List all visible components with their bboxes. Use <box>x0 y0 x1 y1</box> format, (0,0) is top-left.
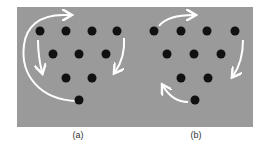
right-down-arrow-icon <box>233 40 243 76</box>
dot <box>62 74 71 83</box>
panel-a-dots <box>36 27 122 105</box>
left-down-arrow-icon <box>38 40 42 72</box>
bottom-left-up-arrow-icon <box>163 86 188 102</box>
dot <box>113 27 122 36</box>
dot <box>88 27 97 36</box>
dot <box>231 27 240 36</box>
dot <box>75 96 84 105</box>
dot <box>150 27 159 36</box>
dot <box>88 74 97 83</box>
figure-graphic <box>0 0 268 151</box>
top-right-arrow-icon <box>159 15 194 26</box>
dot <box>203 27 212 36</box>
caption-a: (a) <box>63 130 93 140</box>
panel-b-arrows <box>159 15 243 102</box>
dot <box>191 96 200 105</box>
dot <box>204 74 213 83</box>
dot <box>163 50 172 59</box>
dot <box>190 50 199 59</box>
dot <box>217 50 226 59</box>
dot <box>177 27 186 36</box>
dot <box>75 50 84 59</box>
dot <box>102 50 111 59</box>
panel-b-dots <box>150 27 240 105</box>
dot <box>36 27 45 36</box>
dot <box>62 27 71 36</box>
right-down-arrow-icon <box>115 38 124 72</box>
dot <box>177 74 186 83</box>
dot <box>49 50 58 59</box>
caption-b: (b) <box>181 130 211 140</box>
